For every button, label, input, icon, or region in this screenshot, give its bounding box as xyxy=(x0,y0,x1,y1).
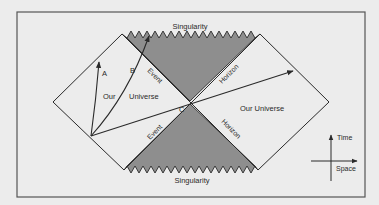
our-universe-right-label: Our Universe xyxy=(240,104,284,113)
diagram-canvas: Singularity Singularity A B C Our Univer… xyxy=(0,0,379,205)
penrose-diagram: Singularity Singularity A B C Our Univer… xyxy=(0,0,379,205)
universe-label: Universe xyxy=(129,92,159,101)
worldline-a xyxy=(91,62,99,136)
path-b-label: B xyxy=(130,66,135,75)
right-universe-boundary xyxy=(255,34,329,170)
singularity-top-label: Singularity xyxy=(172,22,207,31)
singularity-bottom-label: Singularity xyxy=(174,176,209,185)
path-a-label: A xyxy=(102,69,107,78)
our-label: Our xyxy=(103,92,116,101)
left-universe-boundary xyxy=(53,34,127,170)
space-axis-label: Space xyxy=(336,165,356,173)
white-hole-region xyxy=(127,104,255,173)
path-c-label: C xyxy=(179,105,185,114)
time-axis-label: Time xyxy=(337,134,352,141)
